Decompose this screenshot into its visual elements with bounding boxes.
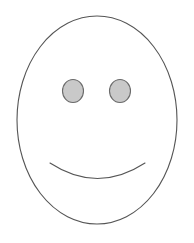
smiley-face-illustration (0, 0, 194, 243)
left-eye-ellipse (63, 80, 84, 103)
right-eye-ellipse (110, 80, 131, 103)
drawing-canvas: Simple line drawing of a smiley face: a … (0, 0, 194, 243)
canvas-background (0, 0, 194, 243)
